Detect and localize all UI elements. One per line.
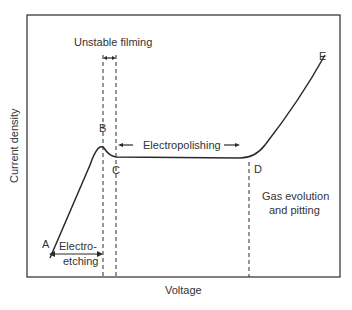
region-label-unstable-filming: Unstable filming — [74, 36, 152, 48]
point-label-b: B — [99, 122, 106, 134]
diagram-canvas: A B C D E Unstable filming Electropolish… — [0, 0, 352, 310]
region-label-gas-evolution-2: and pitting — [269, 204, 320, 216]
arrowhead-right-icon — [235, 143, 240, 147]
arrowhead-right-icon — [112, 56, 116, 60]
arrowhead-left-icon — [118, 143, 123, 147]
region-label-electropolishing: Electropolishing — [143, 139, 221, 151]
arrowhead-left-icon — [103, 56, 107, 60]
x-axis-label: Voltage — [165, 284, 202, 296]
polarization-curve — [50, 55, 325, 258]
point-label-d: D — [254, 163, 262, 175]
point-label-c: C — [112, 164, 120, 176]
y-axis-label: Current density — [8, 108, 20, 183]
region-label-electro-etching-2: etching — [63, 255, 98, 267]
region-label-gas-evolution-1: Gas evolution — [262, 190, 329, 202]
point-label-e: E — [319, 50, 326, 62]
region-label-electro-etching-1: Electro- — [59, 240, 97, 252]
point-label-a: A — [42, 238, 50, 250]
